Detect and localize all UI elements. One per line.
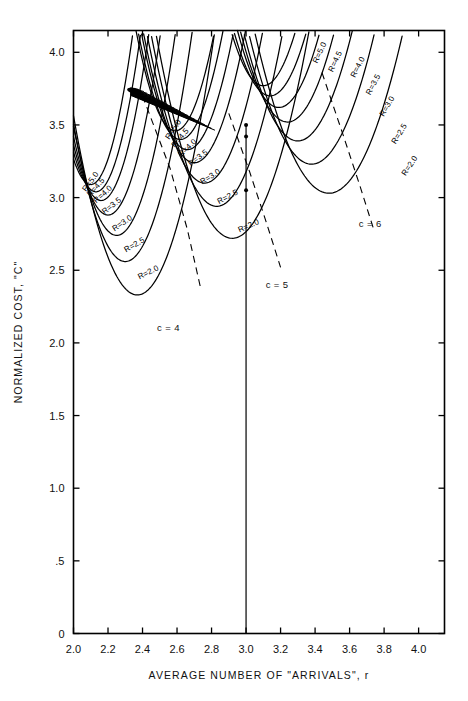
x-tick-label: 3.2 (273, 643, 288, 655)
x-tick-label: 2.8 (204, 643, 219, 655)
y-tick-label: 1.5 (49, 410, 64, 422)
x-tick-label: 3.6 (342, 643, 357, 655)
curve-label-c5-R20: R=2.0 (237, 217, 261, 234)
marked-point (244, 188, 248, 192)
curve-c4-R30 (74, 35, 176, 236)
curve-label-c6-R35: R=3.5 (364, 72, 383, 96)
y-tick-label: 2.0 (49, 337, 64, 349)
x-tick-label: 3.0 (238, 643, 253, 655)
y-tick-label: 0 (58, 628, 64, 640)
dashed-locus-c6 (322, 73, 374, 230)
x-tick-label: 2.6 (169, 643, 184, 655)
y-tick-label: 2.5 (49, 264, 64, 276)
curve-label-c6-R20: R=2.0 (400, 154, 420, 178)
marked-point (244, 123, 248, 127)
x-tick-label: 4.0 (411, 643, 426, 655)
curve-label-c4-R25: R=2.5 (123, 235, 147, 254)
curve-label-c6-R25: R=2.5 (390, 122, 410, 146)
x-tick-label: 2.4 (135, 643, 150, 655)
curve-c6-R50 (232, 33, 295, 85)
marked-point (244, 135, 248, 139)
x-tick-label: 2.0 (66, 643, 81, 655)
y-tick-label: .5 (55, 555, 64, 567)
family-annotation-c-5: c = 5 (266, 279, 289, 290)
y-tick-label: 1.0 (49, 482, 64, 494)
family-annotation-c-4: c = 4 (157, 322, 180, 333)
x-tick-label: 2.2 (100, 643, 115, 655)
curve-label-c6-R40: R=4.0 (349, 55, 367, 79)
x-axis-title: AVERAGE NUMBER OF "ARRIVALS", r (149, 669, 370, 681)
family-annotation-c-6: c = 6 (359, 218, 382, 229)
chart-svg: 2.02.22.42.62.83.03.23.43.63.84.00.51.01… (0, 0, 468, 701)
y-tick-label: 4.0 (49, 46, 64, 58)
y-tick-label: 3.0 (49, 192, 64, 204)
y-axis-title: NORMALIZED COST, "C" (12, 261, 24, 404)
x-tick-label: 3.8 (376, 643, 391, 655)
plot-frame (74, 31, 445, 634)
y-tick-label: 3.5 (49, 119, 64, 131)
curve-label-c5-R25: R=2.5 (216, 187, 240, 206)
x-tick-label: 3.4 (307, 643, 322, 655)
curve-label-c5-R30: R=3.0 (198, 167, 222, 187)
chart-figure: 2.02.22.42.62.83.03.23.43.63.84.00.51.01… (0, 0, 468, 701)
curve-c6-R45 (234, 34, 305, 96)
curve-label-c6-R30: R=3.0 (378, 94, 397, 118)
